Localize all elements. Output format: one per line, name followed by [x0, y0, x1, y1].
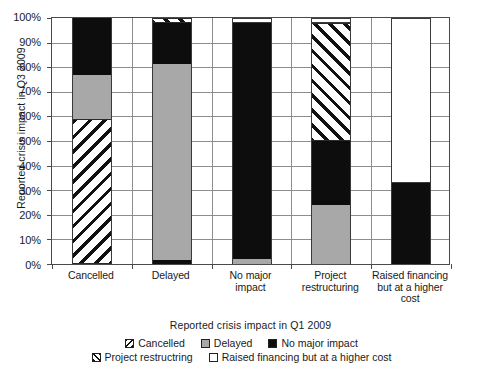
x-axis-category-label-line: Delayed	[131, 270, 211, 282]
legend-label: Project restructring	[105, 350, 193, 364]
legend-item[interactable]: Project restructring	[92, 350, 193, 364]
bar-segment[interactable]	[311, 18, 351, 23]
bar-segment[interactable]	[152, 23, 192, 64]
y-axis-tick-label: 0%	[0, 259, 41, 271]
bar-segment[interactable]	[72, 18, 112, 75]
legend-item[interactable]: Delayed	[201, 336, 253, 350]
legend-item[interactable]: Cancelled	[125, 336, 185, 350]
x-axis-category-label-line: Project	[290, 270, 370, 282]
legend-item[interactable]: Raised financing but at a higher cost	[209, 350, 392, 364]
bar-column[interactable]	[152, 18, 192, 264]
bar-column[interactable]	[391, 18, 431, 264]
y-axis-tick-label: 100%	[0, 11, 41, 23]
bar-column[interactable]	[311, 18, 351, 264]
x-axis-category-label: Projectrestructuring	[290, 270, 370, 293]
bar-segment[interactable]	[391, 183, 431, 264]
y-axis-tick	[47, 239, 52, 240]
x-axis-category-label: Delayed	[131, 270, 211, 282]
legend-swatch-icon	[92, 353, 101, 362]
y-axis-tick	[47, 141, 52, 142]
category-separator	[132, 18, 133, 264]
y-axis-tick-label: 60%	[0, 110, 41, 122]
y-axis-tick-label: 70%	[0, 85, 41, 97]
stacked-bar-chart: Reported crisis impact in Q3 2009 0%10%2…	[0, 0, 483, 366]
x-axis-tick	[451, 264, 452, 269]
y-axis-tick-label: 50%	[0, 135, 41, 147]
legend-swatch-icon	[268, 339, 277, 348]
bar-segment[interactable]	[391, 18, 431, 183]
x-axis-category-label-line: restructuring	[290, 282, 370, 294]
y-axis-tick-label: 30%	[0, 185, 41, 197]
y-axis-tick-label: 90%	[0, 36, 41, 48]
x-axis-tick	[212, 264, 213, 269]
bar-segment[interactable]	[72, 75, 112, 119]
bar-segment[interactable]	[311, 23, 351, 141]
x-axis-category-label-line: Cancelled	[51, 270, 131, 282]
y-axis-tick	[47, 215, 52, 216]
bar-segment[interactable]	[152, 64, 192, 261]
x-axis-category-label-line: No major	[211, 270, 291, 282]
bar-segment[interactable]	[311, 141, 351, 205]
category-separator	[291, 18, 292, 264]
x-axis-tick	[291, 264, 292, 269]
bar-segment[interactable]	[232, 18, 272, 23]
bar-segment[interactable]	[72, 119, 112, 264]
y-axis-tick	[47, 92, 52, 93]
bar-segment[interactable]	[152, 18, 192, 23]
bar-segment[interactable]	[232, 23, 272, 259]
y-axis-tick-label: 10%	[0, 234, 41, 246]
legend-label: Cancelled	[138, 336, 185, 350]
bar-column[interactable]	[72, 18, 112, 264]
bar-segment[interactable]	[152, 260, 192, 264]
x-axis-title: Reported crisis impact in Q1 2009	[51, 319, 450, 331]
x-axis-category-label: Raised financingbut at a highercost	[370, 270, 450, 305]
x-axis-category-label: No majorimpact	[211, 270, 291, 293]
category-separator	[212, 18, 213, 264]
legend-label: Delayed	[214, 336, 253, 350]
y-axis-tick	[47, 18, 52, 19]
x-axis-category-label-line: cost	[370, 293, 450, 305]
y-axis-tick-label: 80%	[0, 61, 41, 73]
legend-row-1: CancelledDelayedNo major impact	[0, 336, 483, 350]
y-axis-tick-label: 20%	[0, 209, 41, 221]
legend-swatch-icon	[209, 353, 218, 362]
x-axis-category-label-line: impact	[211, 282, 291, 294]
legend-swatch-icon	[201, 339, 210, 348]
bar-segment[interactable]	[232, 259, 272, 264]
x-axis-tick	[52, 264, 53, 269]
category-separator	[371, 18, 372, 264]
x-axis-category-label: Cancelled	[51, 270, 131, 282]
y-axis-tick	[47, 67, 52, 68]
plot-area	[51, 17, 450, 265]
y-axis-tick-label: 40%	[0, 160, 41, 172]
y-axis-tick	[47, 166, 52, 167]
y-axis-tick	[47, 116, 52, 117]
x-axis-tick	[132, 264, 133, 269]
legend-item[interactable]: No major impact	[268, 336, 357, 350]
chart-legend: CancelledDelayedNo major impact Project …	[0, 336, 483, 364]
y-axis-tick	[47, 43, 52, 44]
legend-swatch-icon	[125, 339, 134, 348]
bar-segment[interactable]	[311, 205, 351, 264]
bar-column[interactable]	[232, 18, 272, 264]
legend-label: Raised financing but at a higher cost	[222, 350, 392, 364]
x-axis-category-label-line: Raised financing	[370, 270, 450, 282]
legend-row-2: Project restructringRaised financing but…	[0, 350, 483, 364]
y-axis-tick	[47, 190, 52, 191]
legend-label: No major impact	[281, 336, 357, 350]
